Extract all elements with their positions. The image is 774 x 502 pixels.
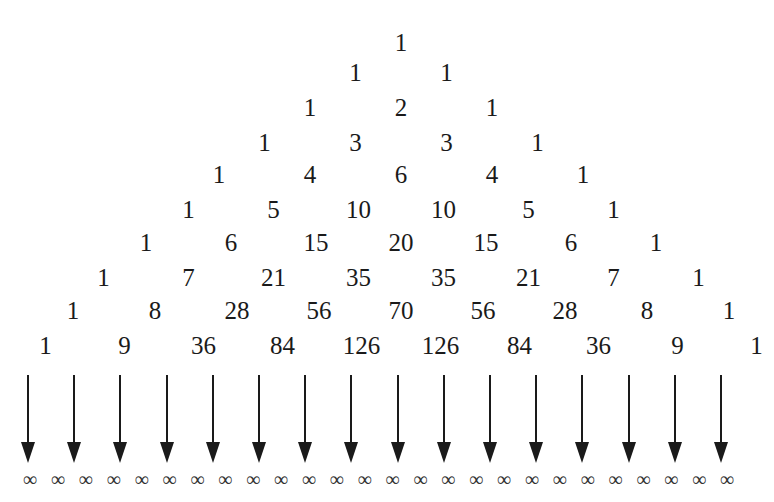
infinity-symbol: ∞ — [497, 469, 511, 489]
down-arrow-icon — [480, 375, 500, 465]
triangle-entry: 1 — [349, 60, 362, 85]
triangle-entry: 35 — [431, 265, 456, 290]
triangle-entry: 9 — [671, 333, 684, 358]
triangle-entry: 1 — [486, 95, 499, 120]
down-arrow-icon — [157, 375, 177, 465]
triangle-entry: 56 — [307, 298, 332, 323]
infinity-symbol: ∞ — [79, 469, 93, 489]
triangle-entry: 7 — [182, 265, 195, 290]
infinity-symbol: ∞ — [720, 469, 734, 489]
triangle-entry: 1 — [182, 197, 195, 222]
triangle-entry: 21 — [261, 265, 286, 290]
down-arrow-icon — [572, 375, 592, 465]
pascals-triangle-diagram: 1111211331146411510105116152015611721353… — [0, 0, 774, 502]
triangle-entry: 9 — [118, 333, 131, 358]
triangle-entry: 8 — [641, 298, 654, 323]
infinity-symbol: ∞ — [218, 469, 232, 489]
infinity-symbol: ∞ — [23, 469, 37, 489]
infinity-symbol: ∞ — [246, 469, 260, 489]
triangle-entry: 56 — [471, 298, 496, 323]
triangle-entry: 126 — [422, 333, 460, 358]
triangle-entry: 6 — [225, 230, 238, 255]
triangle-entry: 6 — [565, 230, 578, 255]
triangle-entry: 36 — [191, 333, 216, 358]
triangle-entry: 10 — [346, 197, 371, 222]
triangle-entry: 36 — [586, 333, 611, 358]
triangle-entry: 1 — [440, 60, 453, 85]
triangle-entry: 1 — [304, 95, 317, 120]
triangle-entry: 15 — [304, 230, 329, 255]
down-arrow-icon — [526, 375, 546, 465]
infinity-symbol: ∞ — [636, 469, 650, 489]
triangle-entry: 84 — [270, 333, 295, 358]
infinity-symbol: ∞ — [302, 469, 316, 489]
infinity-symbol: ∞ — [413, 469, 427, 489]
triangle-entry: 1 — [140, 230, 153, 255]
infinity-symbol: ∞ — [469, 469, 483, 489]
infinity-symbol: ∞ — [190, 469, 204, 489]
infinity-symbol: ∞ — [51, 469, 65, 489]
down-arrow-icon — [203, 375, 223, 465]
down-arrow-icon — [295, 375, 315, 465]
down-arrow-icon — [341, 375, 361, 465]
triangle-entry: 1 — [750, 333, 763, 358]
triangle-entry: 15 — [474, 230, 499, 255]
triangle-entry: 6 — [395, 162, 408, 187]
triangle-entry: 1 — [258, 130, 271, 155]
triangle-entry: 5 — [522, 197, 535, 222]
triangle-entry: 35 — [346, 265, 371, 290]
triangle-entry: 1 — [607, 197, 620, 222]
down-arrow-icon — [711, 375, 731, 465]
triangle-entry: 28 — [553, 298, 578, 323]
down-arrow-icon — [110, 375, 130, 465]
triangle-entry: 1 — [577, 162, 590, 187]
triangle-entry: 28 — [225, 298, 250, 323]
triangle-entry: 3 — [349, 130, 362, 155]
triangle-entry: 21 — [516, 265, 541, 290]
down-arrow-icon — [249, 375, 269, 465]
infinity-symbol: ∞ — [580, 469, 594, 489]
infinity-symbol: ∞ — [274, 469, 288, 489]
infinity-symbol: ∞ — [134, 469, 148, 489]
triangle-entry: 1 — [395, 30, 408, 55]
triangle-entry: 7 — [607, 265, 620, 290]
down-arrow-icon — [388, 375, 408, 465]
triangle-entry: 5 — [267, 197, 280, 222]
down-arrow-icon — [619, 375, 639, 465]
down-arrow-icon — [665, 375, 685, 465]
down-arrow-icon — [434, 375, 454, 465]
infinity-symbol: ∞ — [385, 469, 399, 489]
triangle-entry: 1 — [650, 230, 663, 255]
infinity-symbol: ∞ — [525, 469, 539, 489]
triangle-entry: 10 — [431, 197, 456, 222]
triangle-entry: 1 — [692, 265, 705, 290]
triangle-entry: 1 — [67, 298, 80, 323]
infinity-symbol: ∞ — [608, 469, 622, 489]
infinity-symbol: ∞ — [106, 469, 120, 489]
triangle-entry: 70 — [389, 298, 414, 323]
infinity-symbol: ∞ — [357, 469, 371, 489]
triangle-entry: 1 — [39, 333, 52, 358]
triangle-entry: 2 — [395, 95, 408, 120]
triangle-entry: 1 — [723, 298, 736, 323]
down-arrow-icon — [64, 375, 84, 465]
triangle-entry: 1 — [97, 265, 110, 290]
triangle-entry: 126 — [343, 333, 381, 358]
triangle-entry: 8 — [149, 298, 162, 323]
infinity-symbol: ∞ — [162, 469, 176, 489]
triangle-entry: 1 — [531, 130, 544, 155]
infinity-symbol: ∞ — [692, 469, 706, 489]
infinity-symbol: ∞ — [441, 469, 455, 489]
triangle-entry: 20 — [389, 230, 414, 255]
infinity-symbol: ∞ — [664, 469, 678, 489]
triangle-entry: 4 — [304, 162, 317, 187]
triangle-entry: 4 — [486, 162, 499, 187]
infinity-symbol: ∞ — [553, 469, 567, 489]
triangle-entry: 3 — [440, 130, 453, 155]
infinity-symbol: ∞ — [330, 469, 344, 489]
triangle-entry: 1 — [213, 162, 226, 187]
triangle-entry: 84 — [507, 333, 532, 358]
down-arrow-icon — [18, 375, 38, 465]
